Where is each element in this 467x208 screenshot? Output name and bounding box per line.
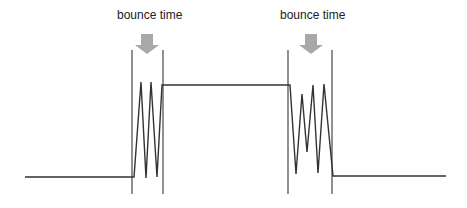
left-bounce-time-label: bounce time — [117, 8, 182, 22]
right-bounce-time-label: bounce time — [280, 8, 345, 22]
left-bounce-arrow-icon — [135, 34, 159, 54]
bounce-markers — [132, 50, 332, 194]
right-bounce-arrow-icon — [299, 34, 323, 54]
signal-waveform — [25, 82, 446, 178]
signal-canvas — [0, 0, 467, 208]
